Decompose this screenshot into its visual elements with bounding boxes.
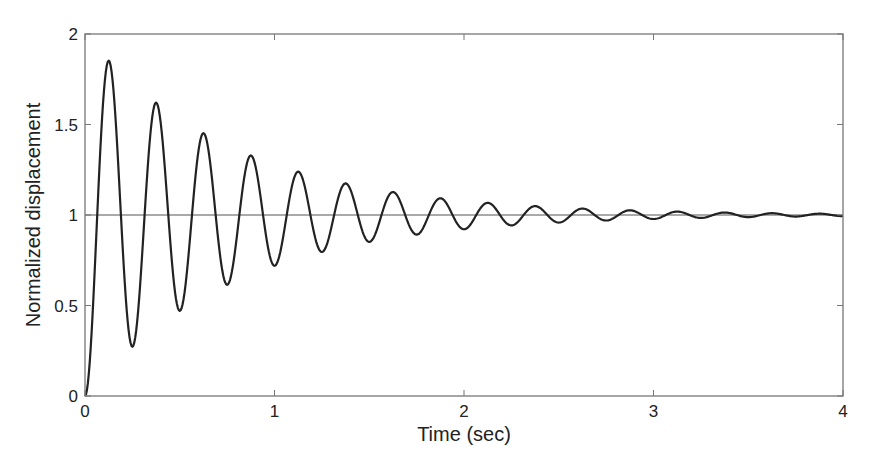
step-response-chart: 01234 00.511.52 Time (sec) Normalized di… (0, 0, 869, 473)
y-tick-label: 0.5 (54, 297, 78, 316)
x-tick-label: 0 (80, 402, 89, 421)
x-axis-label: Time (sec) (417, 423, 511, 445)
response-curve (85, 61, 843, 396)
y-tick-label: 0 (69, 387, 78, 406)
y-tick-label: 1 (69, 206, 78, 225)
y-tick-label: 1.5 (54, 116, 78, 135)
x-tick-label: 2 (459, 402, 468, 421)
y-axis-label: Normalized displacement (22, 102, 44, 327)
x-tick-label: 4 (838, 402, 847, 421)
x-tick-label: 1 (270, 402, 279, 421)
x-tick-label: 3 (649, 402, 658, 421)
y-tick-label: 2 (69, 25, 78, 44)
x-axis-ticks: 01234 (80, 34, 847, 421)
plot-area (85, 34, 843, 396)
